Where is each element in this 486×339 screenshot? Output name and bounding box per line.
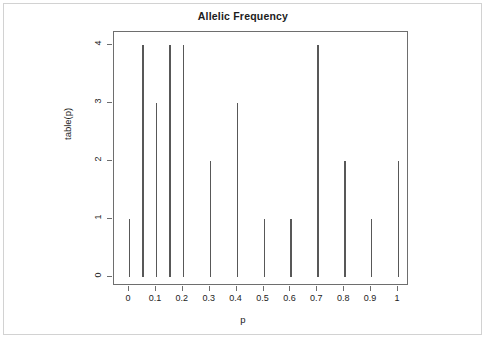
x-axis-label: p [0,314,486,325]
spike-bar [142,45,143,277]
x-tick-mark [289,286,290,291]
x-tick-label: 0.9 [355,293,385,303]
x-tick-label: 0.6 [274,293,304,303]
x-tick-label: 0.7 [301,293,331,303]
spike-bar [129,219,130,277]
x-tick-label: 1 [382,293,412,303]
x-tick-mark [182,286,183,291]
chart-title: Allelic Frequency [0,10,486,22]
spike-bar [317,45,318,277]
spike-bar [237,103,238,277]
x-tick-mark [316,286,317,291]
x-tick-mark [263,286,264,291]
spike-series [114,32,407,284]
y-tick-label: 4 [93,36,103,50]
x-tick-label: 0.5 [248,293,278,303]
y-tick-mark [107,102,112,103]
spike-bar [371,219,372,277]
x-tick-mark [397,286,398,291]
x-tick-label: 0.3 [194,293,224,303]
y-tick-mark [107,160,112,161]
x-tick-label: 0.1 [140,293,170,303]
x-tick-mark [209,286,210,291]
y-tick-label: 1 [93,210,103,224]
x-tick-mark [236,286,237,291]
spike-bar [210,161,211,277]
y-tick-mark [107,276,112,277]
spike-bar [290,219,291,277]
x-tick-label: 0.4 [221,293,251,303]
y-axis-label: table(p) [62,108,73,140]
y-tick-mark [107,44,112,45]
spike-bar [169,45,170,277]
x-tick-mark [370,286,371,291]
spike-bar [398,161,399,277]
plot-panel [113,31,408,285]
spike-bar [264,219,265,277]
x-tick-label: 0 [113,293,143,303]
spike-bar [156,103,157,277]
x-tick-mark [155,286,156,291]
x-tick-mark [343,286,344,291]
x-tick-mark [128,286,129,291]
x-tick-label: 0.8 [328,293,358,303]
spike-bar [183,45,184,277]
spike-bar [344,161,345,277]
y-tick-label: 2 [93,152,103,166]
y-tick-label: 0 [93,268,103,282]
x-tick-label: 0.2 [167,293,197,303]
y-tick-mark [107,218,112,219]
y-tick-label: 3 [93,94,103,108]
chart-screenshot: Allelic Frequency 00.10.20.30.40.50.60.7… [0,0,486,339]
